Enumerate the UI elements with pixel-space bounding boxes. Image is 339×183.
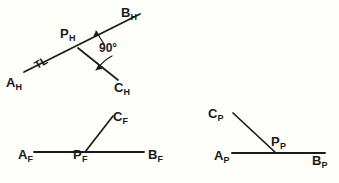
label-b-frontal: BF (148, 146, 163, 162)
label-p-frontal: PF (73, 146, 87, 162)
horizontal-view-group (24, 14, 140, 80)
label-b-horizontal: BH (121, 4, 137, 20)
label-a-horizontal: AH (6, 74, 22, 90)
technical-drawing-page: AH BH PH CH TL 90° AF PF BF CF CP AP PP … (0, 0, 339, 183)
label-a-profile: AP (214, 147, 230, 163)
profile-view-line-pc (233, 113, 276, 153)
frontal-view-line-pc (85, 116, 113, 152)
label-c-frontal: CF (113, 108, 128, 124)
label-b-profile: BP (312, 152, 328, 168)
label-p-horizontal: PH (60, 25, 75, 41)
projection-drawing (0, 0, 339, 183)
label-a-frontal: AF (18, 146, 33, 162)
label-c-horizontal: CH (114, 79, 130, 95)
label-c-profile: CP (208, 105, 224, 121)
right-angle-annotation: 90° (99, 42, 117, 54)
label-p-profile: PP (271, 133, 286, 149)
